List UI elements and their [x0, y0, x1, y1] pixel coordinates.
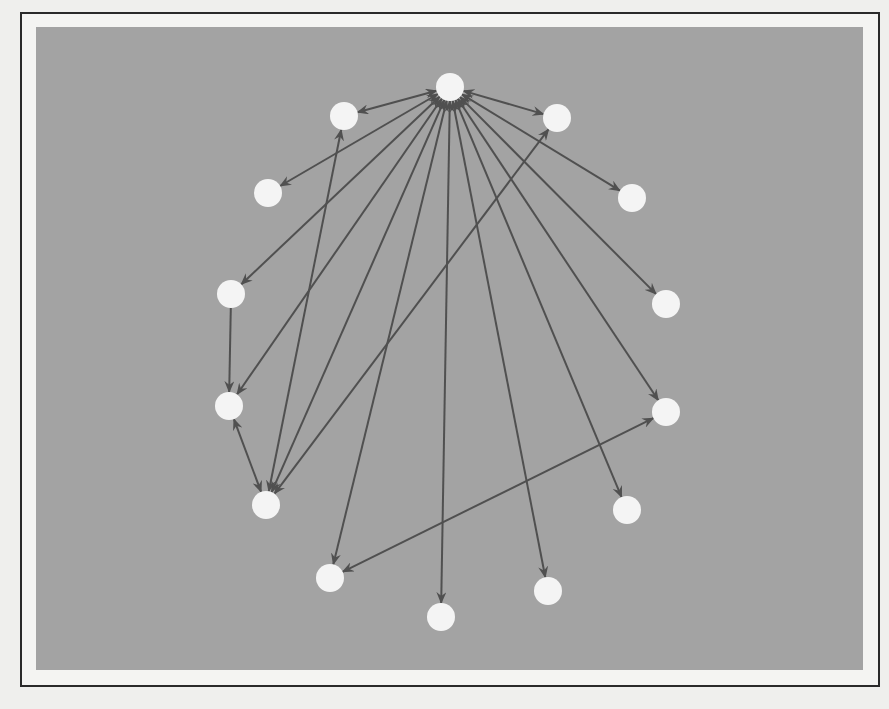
- graph-node: [217, 280, 245, 308]
- edge-n0-n7: [441, 101, 450, 603]
- graph-node: [427, 603, 455, 631]
- graph-node: [613, 496, 641, 524]
- edge-n8-n4: [343, 418, 654, 572]
- edge-n9-n1: [274, 129, 548, 494]
- graph-node: [254, 179, 282, 207]
- edge-layer: [229, 91, 658, 603]
- hub-node: [436, 73, 464, 101]
- graph-node: [543, 104, 571, 132]
- graph-node: [652, 398, 680, 426]
- graph-node: [215, 392, 243, 420]
- graph-node: [252, 491, 280, 519]
- edge-n0-n6: [453, 101, 546, 578]
- edge-n11-n10: [229, 308, 231, 392]
- edge-n10-n9: [234, 419, 261, 492]
- node-layer: [215, 73, 680, 631]
- network-graph: [0, 0, 889, 709]
- graph-node: [534, 577, 562, 605]
- graph-node: [618, 184, 646, 212]
- edge-n9-n13: [269, 130, 341, 492]
- edge-n0-n5: [455, 100, 621, 497]
- graph-node: [316, 564, 344, 592]
- edge-n0-n9: [272, 100, 445, 492]
- edge-n0-n4: [458, 99, 659, 401]
- graph-node: [652, 290, 680, 318]
- graph-node: [330, 102, 358, 130]
- edge-n0-n8: [333, 101, 446, 565]
